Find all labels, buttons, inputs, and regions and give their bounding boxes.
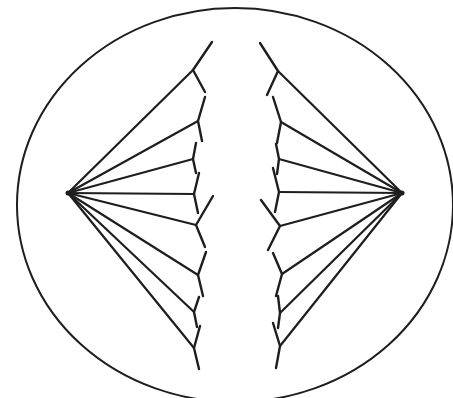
right-chromatid-5 (261, 200, 280, 250)
left-spindle-fiber-2 (68, 121, 198, 193)
left-chromatid-8 (194, 326, 200, 369)
right-spindle-fiber-7 (280, 193, 402, 313)
left-chromatid-3 (193, 143, 196, 173)
left-chromatid-7 (194, 297, 199, 327)
left-spindle-fibers (68, 70, 198, 348)
left-spindle-fiber-5 (68, 193, 196, 225)
left-chromatid-1 (193, 42, 212, 92)
right-chromatid-1 (260, 43, 278, 95)
left-chromatid-2 (198, 97, 205, 141)
right-chromatid-2 (273, 97, 281, 143)
left-chromatid-4 (194, 173, 199, 213)
right-chromatid-7 (278, 296, 280, 328)
diagram-canvas (0, 0, 453, 398)
right-spindle-fiber-6 (282, 193, 402, 274)
left-spindle-pole (66, 191, 71, 196)
left-chromatid-6 (198, 252, 206, 296)
right-chromatid-set (260, 43, 282, 368)
left-spindle-fiber-8 (68, 193, 194, 348)
right-chromatid-8 (273, 323, 280, 368)
left-spindle-fiber-7 (68, 193, 194, 312)
left-spindle-fiber-6 (68, 193, 198, 275)
left-spindle-fiber-4 (68, 193, 194, 194)
right-chromatid-6 (273, 253, 282, 296)
right-spindle-fiber-8 (280, 193, 402, 346)
cell-division-diagram (0, 0, 453, 398)
right-spindle-fiber-4 (279, 192, 402, 193)
right-spindle-fibers (278, 71, 402, 346)
left-chromatid-set (193, 42, 213, 369)
right-spindle-pole (400, 191, 405, 196)
left-chromatid-5 (196, 196, 213, 247)
left-spindle-fiber-1 (68, 70, 193, 193)
right-chromatid-3 (276, 144, 279, 174)
